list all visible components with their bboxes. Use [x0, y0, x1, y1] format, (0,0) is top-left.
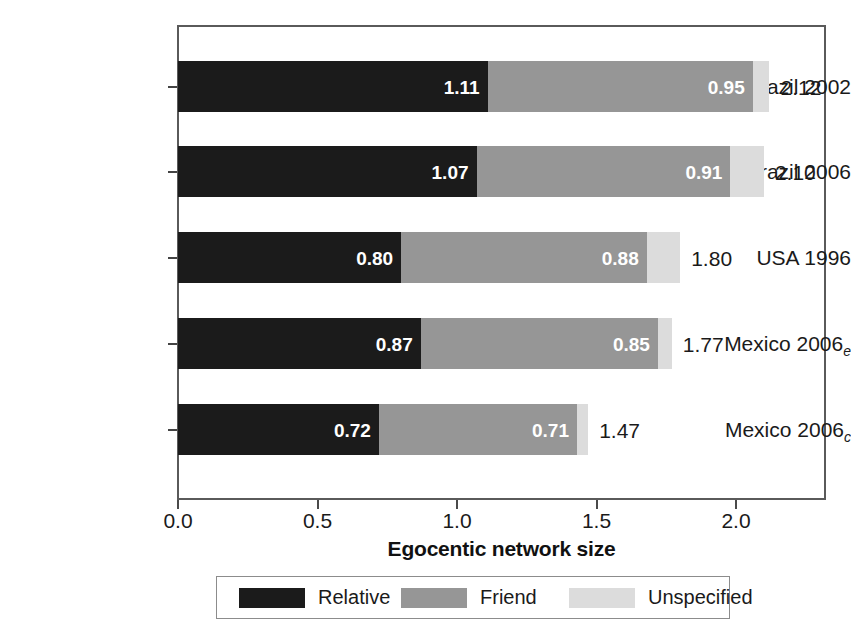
bar-segment-unspecified[interactable] — [658, 318, 672, 369]
bar-total-label: 1.80 — [680, 247, 732, 268]
legend-label: Unspecified — [648, 586, 753, 609]
bar-segment-relative[interactable]: 0.87 — [178, 318, 421, 369]
bar-segment-unspecified[interactable] — [753, 61, 770, 112]
legend-swatch — [401, 588, 467, 608]
bar-segment-relative[interactable]: 0.72 — [178, 404, 379, 455]
x-axis-tick — [317, 500, 319, 509]
x-axis-tick — [596, 500, 598, 509]
legend-item[interactable]: Unspecified — [569, 586, 753, 609]
bar-row: 1.070.912.10 — [0, 146, 851, 197]
bar-total-label: 2.10 — [764, 161, 816, 182]
bar-segment-friend[interactable]: 0.95 — [488, 61, 753, 112]
bar-segment-value: 0.85 — [613, 334, 650, 353]
bar-total-label: 1.47 — [588, 419, 640, 440]
bar-segment-value: 0.80 — [356, 248, 393, 267]
bar-segment-friend[interactable]: 0.91 — [477, 146, 731, 197]
bar-segment-friend[interactable]: 0.85 — [421, 318, 658, 369]
bar-segment-value: 1.11 — [444, 77, 480, 96]
legend-label: Friend — [480, 586, 537, 609]
bar-segment-unspecified[interactable] — [647, 232, 680, 283]
bar-segment-relative[interactable]: 1.11 — [178, 61, 488, 112]
legend-label: Relative — [318, 586, 390, 609]
x-axis-tick — [177, 500, 179, 509]
bar-total-label: 2.12 — [769, 76, 821, 97]
x-axis-tick-label: 0.0 — [163, 509, 192, 533]
bar-segment-friend[interactable]: 0.71 — [379, 404, 577, 455]
bar-segment-value: 1.07 — [432, 162, 469, 181]
bar-total-label: 1.77 — [672, 333, 724, 354]
x-axis-tick-label: 2.0 — [721, 509, 750, 533]
bar-segment-value: 0.71 — [532, 420, 569, 439]
legend-item[interactable]: Relative — [239, 586, 390, 609]
bar-segment-value: 0.87 — [376, 334, 413, 353]
bar-row: 0.870.851.77 — [0, 318, 851, 369]
x-axis-tick — [735, 500, 737, 509]
x-axis-title: Egocentic network size — [177, 537, 826, 561]
bar-row: 0.720.711.47 — [0, 404, 851, 455]
bar-segment-value: 0.91 — [685, 162, 722, 181]
legend-swatch — [569, 588, 635, 608]
bar-row: 0.800.881.80 — [0, 232, 851, 283]
bar-segment-relative[interactable]: 0.80 — [178, 232, 401, 283]
bar-segment-relative[interactable]: 1.07 — [178, 146, 477, 197]
legend-item[interactable]: Friend — [401, 586, 537, 609]
bar-segment-unspecified[interactable] — [730, 146, 763, 197]
bar-segment-friend[interactable]: 0.88 — [401, 232, 647, 283]
x-axis-tick-label: 1.0 — [442, 509, 471, 533]
bar-segment-unspecified[interactable] — [577, 404, 588, 455]
bar-segment-value: 0.95 — [708, 77, 745, 96]
chart-figure: Brazil 2002Brazil 2006USA 1996Mexico 200… — [0, 0, 851, 638]
bar-row: 1.110.952.12 — [0, 61, 851, 112]
x-axis-tick-label: 1.5 — [582, 509, 611, 533]
chart-legend: RelativeFriendUnspecified — [216, 576, 730, 619]
x-axis-tick — [456, 500, 458, 509]
bar-segment-value: 0.88 — [602, 248, 639, 267]
bar-segment-value: 0.72 — [334, 420, 371, 439]
x-axis-tick-label: 0.5 — [303, 509, 332, 533]
legend-swatch — [239, 588, 305, 608]
